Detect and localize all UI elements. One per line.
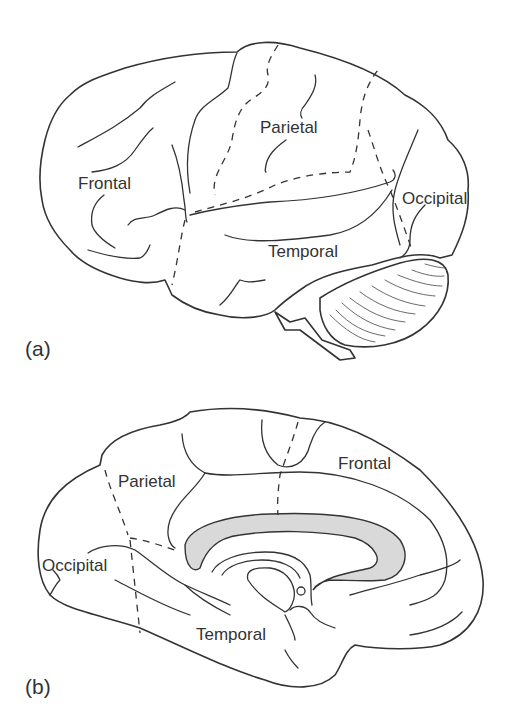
parieto-temporal-border-dashed	[195, 70, 378, 212]
medial-brain-outline	[38, 409, 483, 687]
frontal-parietal-border-dashed	[278, 422, 298, 515]
occipital-temporal-border-dashed	[130, 540, 140, 633]
brain-lobes-figure: Frontal Parietal Temporal Occipital (a)	[0, 0, 514, 719]
inferior-temporal-sulcus	[220, 280, 265, 305]
label-parietal-lateral: Parietal	[260, 118, 318, 137]
frontal-temporal-border-dashed	[172, 220, 185, 285]
corpus-callosum	[185, 513, 405, 590]
label-frontal-lateral: Frontal	[78, 174, 131, 193]
rostral-sulcus	[410, 612, 462, 635]
brainstem-outline	[275, 312, 355, 360]
label-frontal-medial: Frontal	[338, 454, 391, 473]
lateral-brain-view: Frontal Parietal Temporal Occipital (a)	[25, 42, 468, 360]
uncus-outline	[290, 606, 335, 628]
cerebellum-folia	[330, 264, 446, 342]
superior-temporal-sulcus	[225, 190, 392, 241]
anterior-commissure	[297, 587, 305, 595]
label-temporal-medial: Temporal	[196, 625, 266, 644]
intraparietal-sulcus	[301, 75, 316, 118]
temporal-sulcus-medial	[185, 585, 230, 615]
panel-tag-a: (a)	[25, 337, 51, 360]
label-occipital-lateral: Occipital	[402, 189, 467, 208]
central-sulcus	[188, 53, 237, 193]
calcarine-sulcus	[88, 546, 230, 605]
frontal-gyrus-curve	[92, 195, 115, 248]
medial-brain-view: Parietal Frontal Occipital Temporal (b)	[25, 409, 483, 698]
label-temporal-lateral: Temporal	[268, 242, 338, 261]
postcentral-sulcus-lower	[265, 140, 286, 172]
orbital-sulcus	[88, 245, 150, 258]
panel-tag-b: (b)	[25, 675, 51, 698]
uncus-lower	[285, 615, 298, 668]
label-parietal-medial: Parietal	[118, 472, 176, 491]
central-sulcus-medial	[262, 420, 325, 467]
occipital-sulcus	[393, 130, 418, 245]
thalamus-outline	[247, 568, 294, 612]
superior-frontal-sulcus	[78, 82, 175, 147]
collateral-sulcus	[115, 580, 190, 615]
occipital-sulcus-lower	[400, 205, 425, 258]
label-occipital-medial: Occipital	[42, 556, 107, 575]
cingulate-sulcus	[205, 472, 447, 605]
fornix-inner	[222, 560, 300, 578]
frontal-operculum-sulcus	[128, 208, 185, 225]
lateral-fissure	[190, 170, 395, 215]
